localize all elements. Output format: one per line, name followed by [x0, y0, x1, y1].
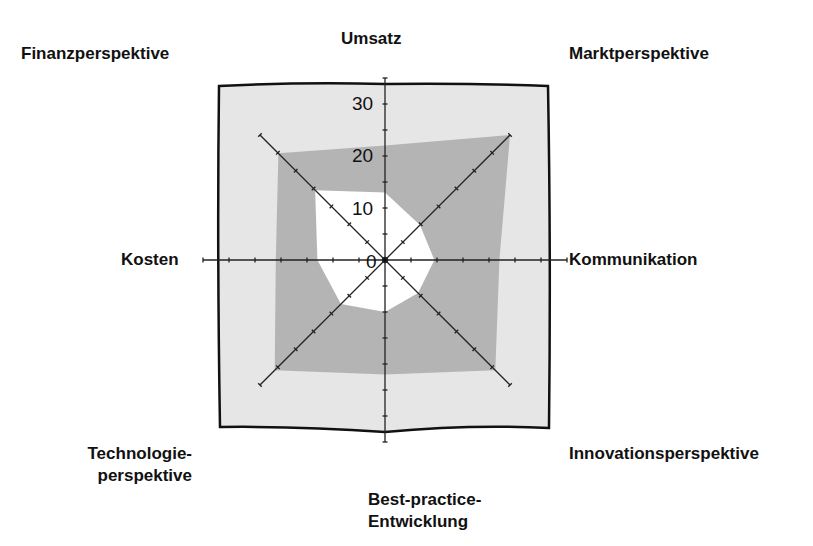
center-point: [383, 258, 388, 263]
radar-chart: 30 20 10 0: [0, 0, 813, 546]
tick-label-0: 0: [366, 251, 377, 272]
tick-label-20: 20: [352, 145, 373, 166]
tick-label-10: 10: [352, 198, 373, 219]
tick-label-30: 30: [352, 93, 373, 114]
